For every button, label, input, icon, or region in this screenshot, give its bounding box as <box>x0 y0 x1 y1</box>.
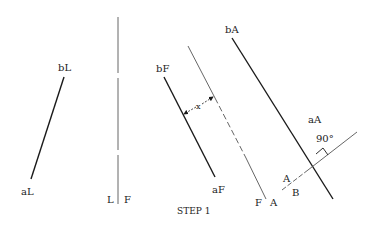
fold-line-FA-seg3 <box>246 158 266 199</box>
label-bA: bA <box>225 24 239 35</box>
label-fold-A: A <box>269 197 278 208</box>
label-aA: aA <box>308 114 322 125</box>
label-aF: aF <box>212 184 225 195</box>
fold-line-FA-dashed <box>215 98 246 158</box>
line-front-view <box>164 77 215 177</box>
right-angle-marker <box>316 148 328 155</box>
label-fold-F2: F <box>255 197 262 208</box>
label-angle: 90° <box>316 133 334 144</box>
fold-line-FA <box>188 46 215 98</box>
label-aL: aL <box>21 186 34 197</box>
label-fold-F: F <box>124 194 131 205</box>
dimension-arrow <box>184 107 196 114</box>
label-fold-A2: A <box>282 173 291 184</box>
dimension-arrow-2 <box>202 97 213 104</box>
descriptive-geometry-diagram: bL aL L F bF aF F A x bA aA A B 90° STEP… <box>0 0 375 240</box>
label-fold-L: L <box>107 194 114 205</box>
label-dimension-x: x <box>196 102 201 111</box>
line-left-view <box>31 77 64 179</box>
label-bF: bF <box>156 63 169 74</box>
step-title: STEP 1 <box>177 206 210 216</box>
label-fold-B: B <box>292 187 299 198</box>
label-bL: bL <box>58 62 71 73</box>
